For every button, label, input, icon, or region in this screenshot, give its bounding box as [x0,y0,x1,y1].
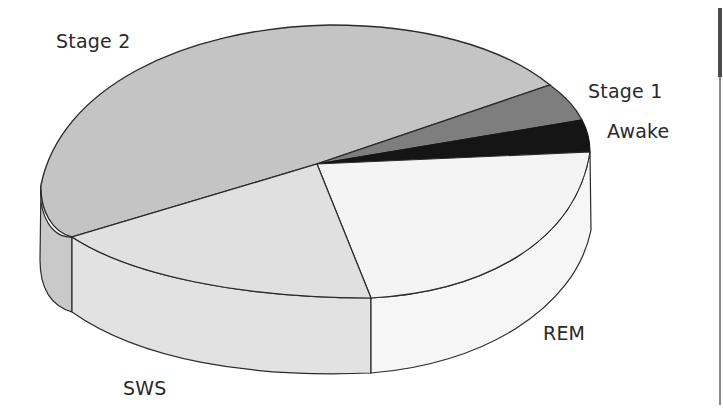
label-stage1: Stage 1 [588,80,662,102]
pie-chart-3d [0,0,723,412]
label-sws: SWS [123,377,167,399]
label-rem: REM [543,322,585,344]
frame-right-accent [718,8,722,77]
label-stage2: Stage 2 [56,30,130,52]
label-awake: Awake [607,120,669,142]
